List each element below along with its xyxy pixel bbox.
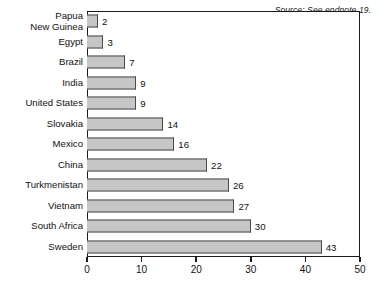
bar-value-label: 9 — [140, 77, 145, 88]
x-axis-tick-label: 40 — [300, 264, 311, 275]
bar — [87, 56, 125, 69]
bar — [87, 117, 163, 130]
bar-value-label: 2 — [102, 16, 107, 27]
x-axis-tick — [359, 257, 361, 262]
category-label: Vietnam — [0, 201, 83, 212]
bar — [87, 35, 103, 48]
bar-value-label: 3 — [107, 36, 112, 47]
category-label: India — [0, 78, 83, 89]
category-label: Turkmenistan — [0, 180, 83, 191]
bar-value-label: 30 — [255, 221, 266, 232]
bar — [87, 15, 98, 28]
bar-value-label: 43 — [326, 241, 337, 252]
bar-row: Vietnam27 — [0, 196, 379, 217]
bar-row: Slovakia14 — [0, 114, 379, 135]
bar — [87, 179, 229, 192]
x-axis-tick — [86, 257, 88, 262]
bar — [87, 76, 136, 89]
bar-row: South Africa30 — [0, 216, 379, 237]
bar — [87, 199, 234, 212]
x-axis-tick — [250, 257, 252, 262]
bar-value-label: 7 — [129, 57, 134, 68]
category-label: Slovakia — [0, 119, 83, 130]
category-label: Mexico — [0, 139, 83, 150]
bar-row: Turkmenistan26 — [0, 175, 379, 196]
x-axis-tick-label: 30 — [245, 264, 256, 275]
x-axis-tick-label: 0 — [84, 264, 90, 275]
bar-row: Papua New Guinea2 — [0, 11, 379, 32]
bar-row: China22 — [0, 155, 379, 176]
bar-row: Sweden43 — [0, 237, 379, 258]
category-label: Sweden — [0, 242, 83, 253]
bar — [87, 97, 136, 110]
bar-row: Brazil7 — [0, 52, 379, 73]
x-axis-tick — [305, 257, 307, 262]
bar-row: India9 — [0, 73, 379, 94]
x-axis-tick-label: 10 — [136, 264, 147, 275]
bar-value-label: 16 — [178, 139, 189, 150]
bar-value-label: 9 — [140, 98, 145, 109]
category-label: United States — [0, 98, 83, 109]
bar — [87, 158, 207, 171]
bar — [87, 138, 174, 151]
bar-row: Mexico16 — [0, 134, 379, 155]
x-axis-tick-label: 50 — [354, 264, 365, 275]
bar-value-label: 22 — [211, 159, 222, 170]
x-axis-tick — [195, 257, 197, 262]
x-axis-tick-label: 20 — [191, 264, 202, 275]
bar-value-label: 26 — [233, 180, 244, 191]
bar — [87, 240, 322, 253]
bar-row: Egypt3 — [0, 32, 379, 53]
category-label: Brazil — [0, 57, 83, 68]
category-label: Papua New Guinea — [0, 11, 83, 32]
bar — [87, 220, 251, 233]
bar-value-label: 14 — [167, 118, 178, 129]
bar-value-label: 27 — [238, 200, 249, 211]
category-label: South Africa — [0, 221, 83, 232]
x-axis-tick — [141, 257, 143, 262]
bar-chart-figure: Source: See endnote 19. Papua New Guinea… — [0, 0, 379, 296]
category-label: Egypt — [0, 37, 83, 48]
category-label: China — [0, 160, 83, 171]
bar-row: United States9 — [0, 93, 379, 114]
